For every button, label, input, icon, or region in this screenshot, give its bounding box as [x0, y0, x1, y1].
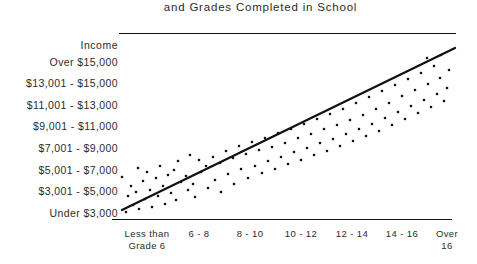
scatter-point: [329, 113, 331, 115]
scatter-point: [368, 96, 370, 98]
scatter-point: [167, 174, 169, 176]
scatter-point: [212, 156, 214, 158]
scatter-point: [448, 69, 450, 71]
scatter-point: [261, 172, 263, 174]
scatter-point: [404, 118, 406, 120]
scatter-point: [420, 72, 422, 74]
scatter-point: [177, 160, 179, 162]
scatter-point: [175, 199, 177, 201]
scatter-point: [414, 89, 416, 91]
scatter-point: [280, 156, 282, 158]
scatter-point: [332, 138, 334, 140]
scatter-point: [439, 77, 441, 79]
scatter-point: [194, 196, 196, 198]
scatter-point: [162, 185, 164, 187]
scatter-point: [427, 83, 429, 85]
scatter-point: [240, 168, 242, 170]
scatter-point: [306, 147, 308, 149]
scatter-point: [271, 146, 273, 148]
scatter-point: [319, 142, 321, 144]
scatter-point: [384, 117, 386, 119]
scatter-point: [207, 187, 209, 189]
scatter-point: [388, 102, 390, 104]
scatter-point: [375, 108, 377, 110]
scatter-point: [394, 84, 396, 86]
scatter-point: [349, 119, 351, 121]
scatter-point: [381, 90, 383, 92]
scatter-point: [426, 57, 428, 59]
scatter-point: [173, 169, 175, 171]
scatter-point: [352, 140, 354, 142]
scatter-point: [258, 149, 260, 151]
scatter-point: [187, 189, 189, 191]
scatter-point: [138, 208, 140, 210]
scatter-point: [433, 65, 435, 67]
scatter-point: [155, 177, 157, 179]
scatter-point: [443, 100, 445, 102]
scatter-point: [297, 137, 299, 139]
scatter-point: [225, 150, 227, 152]
plot-area: [0, 0, 477, 264]
scatter-point: [192, 183, 194, 185]
scatter-point: [254, 165, 256, 167]
scatter-point: [135, 191, 137, 193]
scatter-point: [267, 160, 269, 162]
scatter-point: [336, 124, 338, 126]
scatter-point: [159, 165, 161, 167]
scatter-point: [121, 176, 123, 178]
scatter-point: [342, 108, 344, 110]
trend-line: [122, 48, 455, 210]
scatter-point: [436, 93, 438, 95]
scatter-point: [149, 189, 151, 191]
scatter-point: [142, 180, 144, 182]
scatter-point: [247, 177, 249, 179]
scatter-point: [238, 145, 240, 147]
scatter-point: [430, 106, 432, 108]
scatter-point: [274, 168, 276, 170]
scatter-point: [164, 203, 166, 205]
scatter-point: [446, 87, 448, 89]
scatter-points-group: [121, 54, 450, 213]
scatter-point: [371, 123, 373, 125]
scatter-point: [323, 128, 325, 130]
scatter-point: [125, 211, 127, 213]
scatter-point: [287, 163, 289, 165]
scatter-point: [205, 165, 207, 167]
scatter-point: [303, 123, 305, 125]
scatter-point: [401, 95, 403, 97]
scatter-point: [137, 167, 139, 169]
scatter-point: [358, 128, 360, 130]
scatter-point: [365, 135, 367, 137]
scatter-point: [251, 141, 253, 143]
scatter-point: [345, 133, 347, 135]
scatter-point: [417, 112, 419, 114]
scatter-point: [151, 206, 153, 208]
scatter-point: [391, 124, 393, 126]
scatter-point: [310, 133, 312, 135]
scatter-point: [127, 195, 129, 197]
scatter-point: [130, 185, 132, 187]
bottom-rule: [112, 219, 452, 220]
scatter-point: [189, 154, 191, 156]
scatter-point: [362, 114, 364, 116]
scatter-point: [316, 118, 318, 120]
scatter-point: [245, 153, 247, 155]
scatter-point: [233, 183, 235, 185]
scatter-point: [284, 142, 286, 144]
scatter-point: [410, 105, 412, 107]
scatter-point: [397, 111, 399, 113]
scatter-point: [214, 179, 216, 181]
scatter-point: [220, 191, 222, 193]
scatter-point: [339, 145, 341, 147]
scatter-point: [293, 151, 295, 153]
scatter-chart-figure: and Grades Completed in School Income Ov…: [0, 0, 477, 264]
scatter-point: [146, 171, 148, 173]
x-tick-label: Over 16: [413, 228, 477, 251]
scatter-point: [423, 99, 425, 101]
scatter-point: [378, 130, 380, 132]
scatter-point: [355, 102, 357, 104]
scatter-point: [300, 159, 302, 161]
scatter-point: [227, 173, 229, 175]
scatter-point: [170, 192, 172, 194]
scatter-point: [313, 154, 315, 156]
